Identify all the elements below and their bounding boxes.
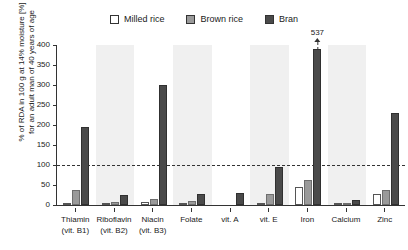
y-tick-0 bbox=[53, 205, 57, 206]
x-label-6-line0: Iron bbox=[300, 214, 314, 225]
bars-5 bbox=[250, 45, 289, 205]
bars-1 bbox=[96, 45, 135, 205]
x-label-7-line0: Calcium bbox=[332, 214, 361, 225]
x-label-4-line0: vit. A bbox=[221, 214, 238, 225]
bar-milled-5[interactable] bbox=[257, 203, 265, 205]
bar-milled-2[interactable] bbox=[141, 202, 149, 205]
x-label-2-line1: (vit. B3) bbox=[139, 225, 167, 236]
bar-brown-0[interactable] bbox=[72, 190, 80, 205]
bar-group-5 bbox=[250, 45, 289, 205]
x-tick-5 bbox=[268, 208, 269, 212]
bar-group-3 bbox=[173, 45, 212, 205]
bar-brown-7[interactable] bbox=[343, 203, 351, 205]
bar-group-7 bbox=[328, 45, 367, 205]
x-tick-2 bbox=[152, 208, 153, 212]
bar-bran-4[interactable] bbox=[236, 193, 244, 205]
bar-brown-6[interactable] bbox=[304, 180, 312, 205]
x-axis-labels: Thiamin(vit. B1)Riboflavin(vit. B2)Niaci… bbox=[56, 208, 404, 248]
bars-3 bbox=[173, 45, 212, 205]
x-tick-4 bbox=[230, 208, 231, 212]
bar-milled-8[interactable] bbox=[373, 194, 381, 205]
x-label-group-8: Zinc bbox=[365, 208, 404, 248]
x-label-group-7: Calcium bbox=[327, 208, 366, 248]
bar-group-2 bbox=[134, 45, 173, 205]
y-tick-label-0: 0 bbox=[46, 201, 50, 209]
legend-label-milled: Milled rice bbox=[124, 15, 165, 24]
bar-bran-5[interactable] bbox=[275, 167, 283, 205]
bar-milled-3[interactable] bbox=[179, 203, 187, 205]
y-tick-label-300: 300 bbox=[37, 81, 50, 89]
x-tick-6 bbox=[307, 208, 308, 212]
x-label-group-2: Niacin(vit. B3) bbox=[133, 208, 172, 248]
bar-brown-3[interactable] bbox=[188, 201, 196, 205]
x-tick-3 bbox=[191, 208, 192, 212]
bar-milled-6[interactable] bbox=[295, 187, 303, 205]
bar-bran-0[interactable] bbox=[81, 127, 89, 205]
bar-bran-6[interactable]: 537 bbox=[313, 49, 321, 205]
bar-brown-8[interactable] bbox=[382, 190, 390, 205]
y-axis-title-line1: % of RDA in 100 g at 14% moisture [%] bbox=[17, 2, 27, 141]
y-axis-title: % of RDA in 100 g at 14% moisture [%] fo… bbox=[15, 0, 39, 162]
bar-brown-2[interactable] bbox=[150, 199, 158, 205]
x-label-8-line0: Zinc bbox=[377, 214, 392, 225]
bar-bran-1[interactable] bbox=[120, 195, 128, 205]
x-label-group-3: Folate bbox=[172, 208, 211, 248]
legend-item-milled[interactable]: Milled rice bbox=[110, 15, 165, 24]
bar-bran-3[interactable] bbox=[197, 194, 205, 205]
legend-label-bran: Bran bbox=[279, 15, 298, 24]
x-label-0-line0: Thiamin bbox=[61, 214, 89, 225]
y-tick-label-150: 150 bbox=[37, 141, 50, 149]
x-label-1-line0: Riboflavin bbox=[96, 214, 131, 225]
bars-0 bbox=[57, 45, 96, 205]
y-tick-label-50: 50 bbox=[41, 181, 50, 189]
x-label-group-6: Iron bbox=[288, 208, 327, 248]
overflow-marker: 537 bbox=[311, 28, 324, 50]
bar-bran-8[interactable] bbox=[391, 113, 399, 205]
bars-8 bbox=[366, 45, 405, 205]
chart-legend: Milled riceBrown riceBran bbox=[0, 11, 408, 27]
bars-4 bbox=[212, 45, 251, 205]
chart-figure: Milled riceBrown riceBran % of RDA in 10… bbox=[0, 0, 408, 250]
bar-milled-7[interactable] bbox=[334, 203, 342, 205]
y-tick-label-400: 400 bbox=[37, 41, 50, 49]
x-label-group-4: vit. A bbox=[211, 208, 250, 248]
overflow-stem bbox=[317, 42, 318, 50]
bar-group-4 bbox=[212, 45, 251, 205]
x-tick-1 bbox=[114, 208, 115, 212]
y-tick-label-100: 100 bbox=[37, 161, 50, 169]
legend-item-brown[interactable]: Brown rice bbox=[186, 15, 243, 24]
bar-brown-1[interactable] bbox=[111, 202, 119, 205]
bar-group-1 bbox=[96, 45, 135, 205]
legend-label-brown: Brown rice bbox=[200, 15, 243, 24]
bars-7 bbox=[328, 45, 367, 205]
y-tick-label-200: 200 bbox=[37, 121, 50, 129]
bar-brown-5[interactable] bbox=[266, 194, 274, 205]
x-label-group-0: Thiamin(vit. B1) bbox=[56, 208, 95, 248]
x-label-0-line1: (vit. B1) bbox=[62, 225, 90, 236]
bar-groups: 537 bbox=[57, 45, 405, 205]
y-axis-title-line2: for an adult man of 40 years of age bbox=[27, 10, 37, 134]
bar-group-0 bbox=[57, 45, 96, 205]
y-tick-label-250: 250 bbox=[37, 101, 50, 109]
x-label-1-line1: (vit. B2) bbox=[100, 225, 128, 236]
x-label-5-line0: vit. E bbox=[260, 214, 278, 225]
legend-swatch-milled-icon bbox=[110, 15, 119, 24]
bars-6: 537 bbox=[289, 45, 328, 205]
y-tick-label-350: 350 bbox=[37, 61, 50, 69]
bar-group-8 bbox=[366, 45, 405, 205]
bar-milled-1[interactable] bbox=[102, 203, 110, 205]
overflow-value-label: 537 bbox=[311, 28, 324, 37]
x-label-2-line0: Niacin bbox=[142, 214, 164, 225]
x-tick-8 bbox=[384, 208, 385, 212]
bar-milled-0[interactable] bbox=[63, 203, 71, 205]
legend-item-bran[interactable]: Bran bbox=[265, 15, 298, 24]
bar-group-6: 537 bbox=[289, 45, 328, 205]
x-tick-7 bbox=[346, 208, 347, 212]
x-label-group-5: vit. E bbox=[249, 208, 288, 248]
bar-bran-7[interactable] bbox=[352, 200, 360, 205]
bars-2 bbox=[134, 45, 173, 205]
bar-bran-2[interactable] bbox=[159, 85, 167, 205]
legend-swatch-brown-icon bbox=[186, 15, 195, 24]
x-tick-0 bbox=[75, 208, 76, 212]
legend-swatch-bran-icon bbox=[265, 15, 274, 24]
